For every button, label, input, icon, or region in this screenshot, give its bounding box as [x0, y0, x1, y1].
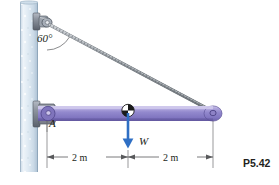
weight-label: W	[139, 135, 148, 147]
angle-label: 60°	[37, 32, 52, 44]
cable-anchor-bracket	[33, 13, 52, 30]
figure-container: 60° A W 2 m 2 m P5.42	[0, 0, 279, 185]
dimension-left-label: 2 m	[72, 152, 87, 163]
dimension-right-label: 2 m	[163, 152, 178, 163]
support-cable	[50, 24, 210, 110]
figure-number-label: P5.42	[243, 157, 270, 169]
point-a-label: A	[49, 117, 56, 129]
mechanics-diagram	[0, 0, 279, 185]
